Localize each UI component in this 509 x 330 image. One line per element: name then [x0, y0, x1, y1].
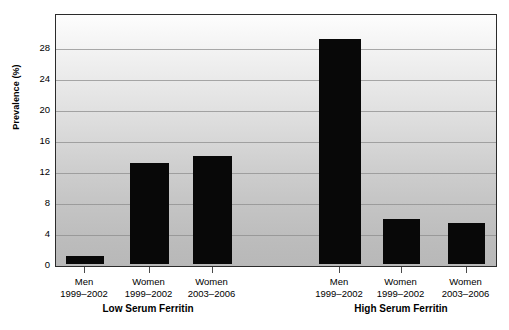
group-label: High Serum Ferritin [321, 303, 481, 314]
x-tick-mark [212, 267, 213, 273]
x-tick-mark [401, 267, 402, 273]
group-label: Low Serum Ferritin [68, 303, 228, 314]
x-tick-mark [339, 267, 340, 273]
x-tick-mark [149, 267, 150, 273]
bar-chart-figure: Prevalence (%) 2824201612840 Men1999–200… [0, 0, 509, 330]
x-category-label-line1: Women [162, 276, 262, 288]
x-category-label: Women2003–2006 [162, 276, 262, 299]
x-category-label: Women2003–2006 [416, 276, 509, 299]
x-category-label-line1: Women [416, 276, 509, 288]
x-category-label-line2: 2003–2006 [162, 288, 262, 300]
x-tick-mark [84, 267, 85, 273]
x-category-label-line2: 2003–2006 [416, 288, 509, 300]
x-tick-mark [466, 267, 467, 273]
